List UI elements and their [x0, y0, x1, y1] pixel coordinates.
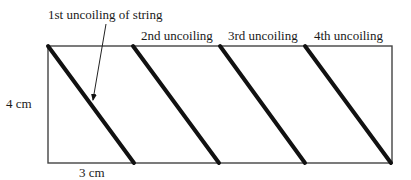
pointer-arrow [93, 24, 106, 100]
string-segment-2 [133, 46, 219, 163]
label-second-uncoiling: 2nd uncoiling [141, 28, 213, 43]
string-segment-4 [305, 46, 391, 163]
label-first-uncoiling: 1st uncoiling of string [48, 7, 163, 22]
uncoiled-cylinder-diagram: 1st uncoiling of string 2nd uncoiling 3r… [0, 0, 411, 180]
label-fourth-uncoiling: 4th uncoiling [314, 28, 383, 43]
label-height: 4 cm [6, 96, 32, 111]
string-segment-1 [48, 46, 134, 163]
label-third-uncoiling: 3rd uncoiling [228, 28, 298, 43]
label-width: 3 cm [79, 165, 105, 180]
string-segment-3 [220, 46, 305, 163]
